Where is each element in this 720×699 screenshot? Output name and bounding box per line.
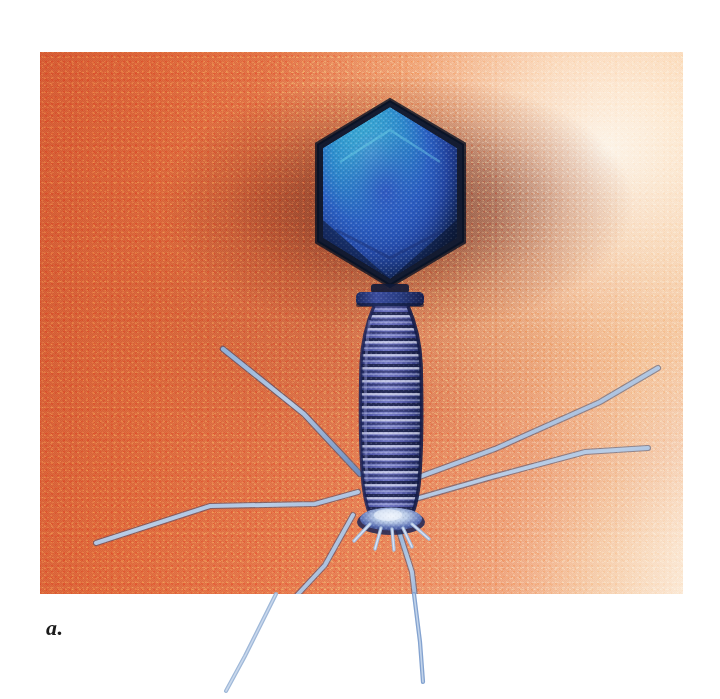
panel-label: a.	[46, 615, 64, 641]
tail-fiber-mid-right	[398, 448, 648, 504]
tail-fiber-lower-right-overflow	[414, 594, 423, 682]
tail-fiber-mid-left	[96, 492, 358, 543]
tail-sheath	[360, 306, 421, 522]
baseplate	[354, 508, 429, 551]
micrograph-plate	[40, 52, 683, 594]
micrograph-image	[40, 52, 683, 594]
tail-fiber-lower-left-overflow	[226, 594, 276, 691]
figure-panel: a.	[0, 0, 720, 699]
bacteriophage-illustration	[40, 52, 683, 594]
collar-neck	[356, 284, 424, 307]
tail-fiber-lower-left	[245, 515, 353, 594]
capsid-head	[317, 100, 464, 286]
